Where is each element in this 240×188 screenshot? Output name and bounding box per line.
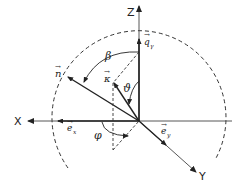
vector-arrow-icon: → [55, 63, 61, 71]
z-axis-label: Z [127, 6, 135, 19]
phi-arc [102, 122, 128, 136]
vector-arrow-icon: → [161, 121, 167, 129]
coordinate-diagram: X Z Y n → κ → q γ → e x → e y → β ϑ φ [0, 0, 240, 188]
vector-arrow-icon: → [67, 118, 73, 126]
n-label: n → [55, 63, 61, 79]
projection-line-top [113, 52, 139, 83]
x-axis-label: X [14, 115, 22, 128]
theta-label: ϑ [123, 82, 131, 95]
vector-arrow-icon: → [144, 31, 150, 39]
phi-label: φ [94, 129, 102, 142]
y-axis-label: Y [198, 170, 206, 183]
diagram-canvas: X Z Y n → κ → q γ → e x → e y → β ϑ φ [0, 0, 240, 188]
beta-arc [84, 52, 139, 82]
vector-arrow-icon: → [104, 68, 110, 76]
kappa-label: κ → [103, 68, 111, 84]
svg-text:γ: γ [150, 42, 154, 50]
svg-text:x: x [73, 128, 77, 135]
ey-label: e y → [161, 121, 171, 139]
beta-label: β [104, 50, 111, 63]
q-label: q γ → [144, 31, 154, 50]
svg-text:y: y [166, 131, 171, 139]
